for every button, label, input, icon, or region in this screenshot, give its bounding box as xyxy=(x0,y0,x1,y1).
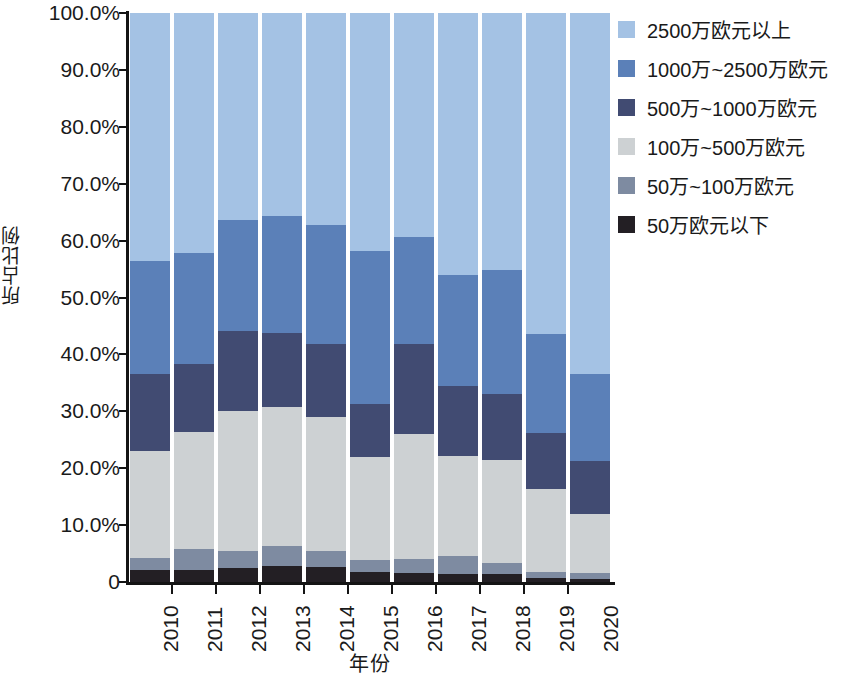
y-axis-tick-label: 10.0% xyxy=(34,513,120,537)
bar-segment[interactable] xyxy=(438,386,478,456)
bar-segment[interactable] xyxy=(262,566,302,582)
bar-segment[interactable] xyxy=(350,560,390,571)
x-axis-tick-label: 2014 xyxy=(335,594,359,652)
bar-segment[interactable] xyxy=(482,574,522,582)
x-axis-tick-label: 2020 xyxy=(599,594,623,652)
bar-segment[interactable] xyxy=(174,253,214,364)
bar-segment[interactable] xyxy=(526,578,566,582)
bar-segment[interactable] xyxy=(526,13,566,334)
bar-2019[interactable] xyxy=(526,13,566,582)
bar-segment[interactable] xyxy=(130,374,170,451)
bar-segment[interactable] xyxy=(394,13,434,237)
x-axis-tick-mark xyxy=(435,584,438,594)
x-axis-tick-mark xyxy=(567,584,570,594)
bar-segment[interactable] xyxy=(394,434,434,559)
bar-segment[interactable] xyxy=(218,551,258,568)
bar-segment[interactable] xyxy=(218,411,258,551)
bar-2013[interactable] xyxy=(262,13,302,582)
bar-segment[interactable] xyxy=(570,579,610,582)
bar-segment[interactable] xyxy=(350,404,390,457)
bar-segment[interactable] xyxy=(218,331,258,411)
legend-item[interactable]: 1000万~2500万欧元 xyxy=(618,51,849,85)
bar-segment[interactable] xyxy=(350,13,390,251)
bar-segment[interactable] xyxy=(306,344,346,417)
bar-segment[interactable] xyxy=(570,514,610,573)
bar-segment[interactable] xyxy=(438,275,478,386)
bar-segment[interactable] xyxy=(218,568,258,582)
legend-label: 500万~1000万欧元 xyxy=(647,93,817,122)
bar-segment[interactable] xyxy=(262,407,302,546)
bar-2016[interactable] xyxy=(394,13,434,582)
legend-item[interactable]: 50万~100万欧元 xyxy=(618,168,849,202)
bar-2020[interactable] xyxy=(570,13,610,582)
legend-label: 2500万欧元以上 xyxy=(647,15,792,44)
bar-segment[interactable] xyxy=(394,573,434,582)
bar-segment[interactable] xyxy=(526,334,566,434)
bar-segment[interactable] xyxy=(130,261,170,374)
bar-segment[interactable] xyxy=(130,13,170,261)
bar-segment[interactable] xyxy=(570,374,610,461)
bar-segment[interactable] xyxy=(438,556,478,574)
bar-2011[interactable] xyxy=(174,13,214,582)
bar-segment[interactable] xyxy=(438,574,478,582)
bar-segment[interactable] xyxy=(306,567,346,582)
bar-segment[interactable] xyxy=(174,570,214,582)
bar-segment[interactable] xyxy=(174,364,214,432)
legend-item[interactable]: 2500万欧元以上 xyxy=(618,12,849,46)
bar-2014[interactable] xyxy=(306,13,346,582)
bar-segment[interactable] xyxy=(130,451,170,559)
bar-segment[interactable] xyxy=(570,461,610,514)
bar-segment[interactable] xyxy=(482,563,522,574)
bar-segment[interactable] xyxy=(350,457,390,560)
bar-segment[interactable] xyxy=(394,559,434,573)
bar-2017[interactable] xyxy=(438,13,478,582)
x-axis-tick-labels: 2010201120122013201420152016201720182019… xyxy=(128,594,612,652)
bar-segment[interactable] xyxy=(482,13,522,270)
bar-segment[interactable] xyxy=(218,13,258,220)
bar-segment[interactable] xyxy=(482,270,522,393)
bar-segment[interactable] xyxy=(394,344,434,434)
y-axis-tick-label: 30.0% xyxy=(34,399,120,423)
legend-item[interactable]: 500万~1000万欧元 xyxy=(618,90,849,124)
bar-segment[interactable] xyxy=(306,417,346,551)
bar-segment[interactable] xyxy=(306,13,346,225)
bar-segment[interactable] xyxy=(482,394,522,460)
bar-2015[interactable] xyxy=(350,13,390,582)
bar-segment[interactable] xyxy=(174,549,214,570)
bar-2018[interactable] xyxy=(482,13,522,582)
legend-item[interactable]: 100万~500万欧元 xyxy=(618,129,849,163)
bar-segment[interactable] xyxy=(174,432,214,549)
bar-segment[interactable] xyxy=(174,13,214,253)
bar-segment[interactable] xyxy=(130,558,170,570)
legend-swatch-icon xyxy=(618,216,635,233)
bar-segment[interactable] xyxy=(570,13,610,374)
bar-2012[interactable] xyxy=(218,13,258,582)
bar-2010[interactable] xyxy=(130,13,170,582)
bar-segment[interactable] xyxy=(306,551,346,567)
bar-segment[interactable] xyxy=(262,333,302,407)
bar-segment[interactable] xyxy=(130,570,170,582)
bar-segment[interactable] xyxy=(306,225,346,344)
legend-label: 50万~100万欧元 xyxy=(647,171,794,200)
x-axis-tick-mark xyxy=(523,584,526,594)
legend-swatch-icon xyxy=(618,21,635,38)
bar-segment[interactable] xyxy=(438,456,478,556)
bar-segment[interactable] xyxy=(394,237,434,344)
bar-segment[interactable] xyxy=(526,433,566,488)
legend-swatch-icon xyxy=(618,138,635,155)
legend-item[interactable]: 50万欧元以下 xyxy=(618,207,849,241)
bar-segment[interactable] xyxy=(350,251,390,404)
legend-label: 50万欧元以下 xyxy=(647,210,769,239)
bar-segment[interactable] xyxy=(438,13,478,275)
y-axis-tick-label: 100.0% xyxy=(34,1,120,25)
legend-label: 100万~500万欧元 xyxy=(647,132,805,161)
y-axis-tick-labels: 010.0%20.0%30.0%40.0%50.0%60.0%70.0%80.0… xyxy=(30,0,120,670)
bar-segment[interactable] xyxy=(262,546,302,566)
bar-segment[interactable] xyxy=(262,13,302,216)
bar-segment[interactable] xyxy=(262,216,302,333)
bar-segment[interactable] xyxy=(526,489,566,572)
bar-segment[interactable] xyxy=(218,220,258,331)
x-axis-tick-mark xyxy=(303,584,306,594)
bar-segment[interactable] xyxy=(350,572,390,582)
bar-segment[interactable] xyxy=(482,460,522,564)
